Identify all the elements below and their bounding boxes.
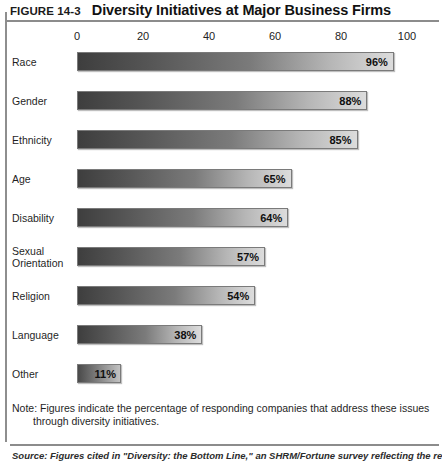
bar-row: Other11% (0, 360, 439, 394)
page-title: Diversity Initiatives at Major Business … (92, 2, 391, 18)
x-axis-tick-40: 40 (203, 30, 215, 42)
category-label-line-1: Disability (12, 213, 74, 225)
bar-row: Religion54% (0, 282, 439, 316)
bar-row: Age65% (0, 165, 439, 199)
bar-row: SexualOrientation57% (0, 243, 439, 277)
bars-area: Race96%Gender88%Ethnicity85%Age65%Disabi… (0, 48, 439, 392)
bar-value-label: 57% (237, 251, 264, 263)
category-label-line-1: Other (12, 369, 74, 381)
figure-header: FIGURE 14-3Diversity Initiatives at Majo… (10, 1, 437, 19)
bar-track: 64% (77, 208, 407, 227)
bar-value-label: 11% (95, 368, 120, 380)
figure-number: FIGURE 14-3 (10, 5, 81, 17)
category-label: Age (12, 174, 74, 186)
note-line-2: through diversity initiatives. (12, 415, 432, 428)
category-label: Language (12, 330, 74, 342)
category-label-line-1: Religion (12, 291, 74, 303)
bar-value-label: 54% (227, 290, 254, 302)
category-label-line-2: Orientation (12, 258, 74, 270)
bar: 88% (77, 91, 367, 110)
bar: 85% (77, 130, 358, 149)
bar-track: 65% (77, 169, 407, 188)
bar: 65% (77, 169, 292, 188)
bar-value-label: 88% (339, 95, 366, 107)
bar-track: 96% (77, 52, 407, 71)
bar-row: Gender88% (0, 87, 439, 121)
bar-row: Race96% (0, 48, 439, 82)
x-axis-tick-20: 20 (137, 30, 149, 42)
x-axis-tick-80: 80 (335, 30, 347, 42)
bar-value-label: 64% (260, 212, 287, 224)
x-axis-tick-0: 0 (74, 30, 80, 42)
bar: 38% (77, 325, 202, 344)
bar: 57% (77, 247, 265, 266)
bar: 54% (77, 286, 255, 305)
source-divider (10, 444, 439, 446)
bar-track: 11% (77, 364, 407, 383)
category-label-line-1: Age (12, 174, 74, 186)
category-label-line-1: Race (12, 57, 74, 69)
bar-track: 54% (77, 286, 407, 305)
bar-track: 57% (77, 247, 407, 266)
category-label: Other (12, 369, 74, 381)
category-label-line-1: Ethnicity (12, 135, 74, 147)
source-caption: Source: Figures cited in "Diversity: the… (12, 450, 442, 461)
category-label: Race (12, 57, 74, 69)
bar: 96% (77, 52, 394, 71)
bar-track: 85% (77, 130, 407, 149)
bar-value-label: 65% (263, 173, 290, 185)
category-label-line-1: Language (12, 330, 74, 342)
bar-row: Disability64% (0, 204, 439, 238)
bar-value-label: 85% (329, 134, 356, 146)
bar-row: Language38% (0, 321, 439, 355)
bar-track: 88% (77, 91, 407, 110)
x-axis-tick-100: 100 (398, 30, 416, 42)
category-label-line-1: Sexual (12, 246, 74, 258)
bar-row: Ethnicity85% (0, 126, 439, 160)
bar: 11% (77, 364, 121, 383)
x-axis-tick-labels: 020406080100 (0, 30, 439, 46)
category-label: Disability (12, 213, 74, 225)
category-label: Gender (12, 96, 74, 108)
x-axis-tick-60: 60 (269, 30, 281, 42)
category-label: Ethnicity (12, 135, 74, 147)
bar-track: 38% (77, 325, 407, 344)
note-line-1: Note: Figures indicate the percentage of… (12, 402, 429, 414)
category-label: Religion (12, 291, 74, 303)
bar-chart: 020406080100 Race96%Gender88%Ethnicity85… (0, 22, 439, 392)
bar-value-label: 96% (366, 56, 393, 68)
category-label-line-1: Gender (12, 96, 74, 108)
category-label: SexualOrientation (12, 246, 74, 269)
bar-value-label: 38% (174, 329, 201, 341)
chart-note: Note: Figures indicate the percentage of… (12, 402, 432, 428)
bar: 64% (77, 208, 288, 227)
